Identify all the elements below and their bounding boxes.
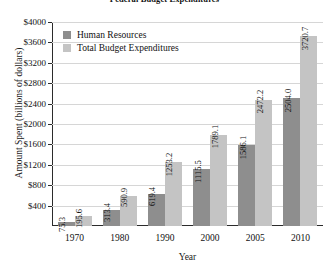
- y-axis-tick-label: $1600: [24, 139, 47, 149]
- bar-value-label: 1253.2: [165, 152, 174, 175]
- bar[interactable]: 590.9: [120, 196, 137, 226]
- bar[interactable]: 1253.2: [165, 162, 182, 226]
- bar[interactable]: 619.4: [148, 194, 165, 226]
- legend-label: Human Resources: [77, 30, 146, 40]
- y-axis-tick-label: $2000: [24, 119, 47, 129]
- bar[interactable]: 313.4: [103, 210, 120, 226]
- legend-swatch-icon: [63, 31, 71, 39]
- bar-value-label: 1115.5: [193, 160, 202, 183]
- bar[interactable]: 1115.5: [193, 169, 210, 226]
- y-axis-tick-label: $1200: [24, 160, 47, 170]
- legend-swatch-icon: [63, 44, 71, 52]
- x-axis-tick-label: 2005: [246, 233, 265, 243]
- chart-legend: Human ResourcesTotal Budget Expenditures: [63, 30, 179, 53]
- bar[interactable]: 1789.1: [210, 135, 227, 226]
- x-axis-label: Year: [52, 252, 323, 262]
- bar-value-label: 2504.0: [283, 89, 292, 112]
- x-axis-tick-label: 2000: [201, 233, 220, 243]
- y-axis-tick-label: $3600: [24, 37, 47, 47]
- bar-value-label: 1789.1: [210, 125, 219, 148]
- bar-group: 2504.03720.7: [283, 22, 317, 226]
- bar-value-label: 590.9: [120, 188, 129, 207]
- chart-figure: Federal Budget Expenditures Amount Spent…: [0, 0, 329, 270]
- chart-title: Federal Budget Expenditures: [0, 0, 329, 4]
- y-axis-tick-label: $800: [28, 180, 46, 190]
- legend-item[interactable]: Total Budget Expenditures: [63, 43, 179, 53]
- x-axis-tick-label: 1990: [155, 233, 174, 243]
- x-axis-tick-label: 2010: [291, 233, 310, 243]
- y-axis-tick-label: $2800: [24, 78, 47, 88]
- bar-value-label: 3720.7: [300, 27, 309, 50]
- y-axis-tick-label: $3200: [24, 58, 47, 68]
- bar[interactable]: 1586.1: [238, 145, 255, 226]
- bar-group: 1115.51789.1: [193, 22, 227, 226]
- bar-value-label: 313.4: [103, 202, 112, 221]
- bar-value-label: 195.6: [75, 208, 84, 227]
- bar[interactable]: 2504.0: [283, 98, 300, 226]
- bar-value-label: 2472.2: [255, 90, 264, 113]
- bar-value-label: 1586.1: [238, 135, 247, 158]
- bar-value-label: 75.3: [58, 217, 67, 232]
- legend-label: Total Budget Expenditures: [77, 43, 179, 53]
- bar-group: 1586.12472.2: [238, 22, 272, 226]
- y-axis-label: Amount Spent (billions of dollars): [14, 33, 24, 193]
- bar-value-label: 619.4: [148, 187, 157, 206]
- y-axis-tick-label: $4000: [24, 17, 47, 27]
- bar[interactable]: 2472.2: [255, 100, 272, 226]
- y-axis-tick-label: $400: [28, 201, 46, 211]
- bar[interactable]: 3720.7: [300, 36, 317, 226]
- bar[interactable]: 195.6: [75, 216, 92, 226]
- x-axis-tick-label: 1980: [110, 233, 129, 243]
- y-axis-tick-label: $2400: [24, 99, 47, 109]
- bar[interactable]: 75.3: [58, 222, 75, 226]
- x-axis-tick-label: 1970: [65, 233, 84, 243]
- legend-item[interactable]: Human Resources: [63, 30, 179, 40]
